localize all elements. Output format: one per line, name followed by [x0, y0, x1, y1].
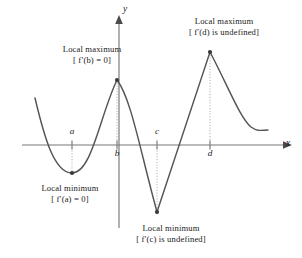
extremum-marker-d — [208, 50, 212, 54]
extremum-marker-a — [70, 171, 74, 175]
annotation-line-1: Local minimum — [104, 223, 238, 234]
annotation-line-1: Local maximum — [36, 44, 148, 55]
extremum-marker-b — [115, 78, 119, 82]
annotation-local-maximum-d: Local maximum [ f′(d) is undefined] — [160, 16, 288, 38]
x-axis-label: x — [286, 138, 290, 148]
tick-label-b: b — [110, 148, 124, 158]
tick-label-c: c — [150, 126, 164, 136]
tick-label-a: a — [65, 126, 79, 136]
annotation-line-1: Local minimum — [14, 183, 126, 194]
annotation-line-2: [ f′(a) = 0] — [14, 194, 126, 205]
annotation-local-minimum-c: Local minimum [ f′(c) is undefined] — [104, 223, 238, 245]
annotation-local-maximum-b: Local maximum [ f′(b) = 0] — [36, 44, 148, 66]
annotation-line-2: [ f′(d) is undefined] — [160, 27, 288, 38]
y-axis-arrowhead — [115, 15, 123, 24]
local-extrema-figure: Local maximum [ f′(b) = 0] Local maximum… — [0, 0, 302, 258]
tick-label-d: d — [203, 148, 217, 158]
extremum-marker-c — [155, 210, 159, 214]
annotation-line-1: Local maximum — [160, 16, 288, 27]
annotation-local-minimum-a: Local minimum [ f′(a) = 0] — [14, 183, 126, 205]
annotation-line-2: [ f′(c) is undefined] — [104, 234, 238, 245]
annotation-line-2: [ f′(b) = 0] — [36, 55, 148, 66]
y-axis-label: y — [123, 4, 127, 14]
